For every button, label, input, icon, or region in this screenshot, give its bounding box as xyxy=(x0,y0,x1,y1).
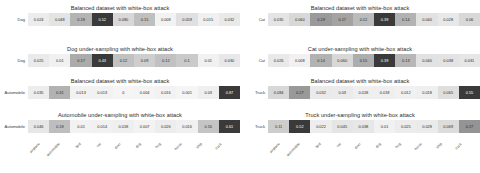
x-tick: automobile xyxy=(288,140,308,170)
y-tick-label: Automobile xyxy=(0,124,28,129)
panel-title: Balanced dataset with white-box attack xyxy=(240,78,480,85)
heatmap-cell: 0.028 xyxy=(438,13,459,26)
heatmap-cell: 0.084 xyxy=(268,86,289,99)
x-tick: automobile xyxy=(48,140,68,170)
heatmap-cell: 0.016 xyxy=(155,86,176,99)
heatmap-cell: 0.040 xyxy=(416,13,437,26)
heatmap-cell: 0.013 xyxy=(70,86,91,99)
panel-title: Dog under-sampling with white-box attack xyxy=(0,46,240,53)
heatmap-cell: 0.015 xyxy=(198,13,219,26)
x-tick-labels-right: airplaneautomobilebirdcatdeerdogfroghors… xyxy=(268,140,470,170)
x-tick-label: frog xyxy=(395,142,402,149)
heatmap-row: Truck0.110.520.0220.0450.0380.010.0250.0… xyxy=(240,120,480,133)
heatmap-cell: 0.024 xyxy=(28,13,49,26)
heatmap-cell: 0.004 xyxy=(134,86,155,99)
figure-canvas: Balanced dataset with white-box attackDo… xyxy=(0,0,480,173)
panel-title: Automobile under-sampling with white-box… xyxy=(0,112,240,119)
x-tick-labels-left: airplaneautomobilebirdcatdeerdogfroghors… xyxy=(28,140,230,170)
x-tick-label: deer xyxy=(114,142,122,150)
heatmap-strip: 0.0460.180.010.0140.0180.0070.0260.0160.… xyxy=(28,120,240,133)
heatmap-cell: 0.059 xyxy=(176,13,197,26)
x-tick: ship xyxy=(430,140,450,170)
heatmap-cell: 0.01 xyxy=(49,54,70,67)
y-tick-label: Truck xyxy=(240,124,268,129)
heatmap-cell: 0.048 xyxy=(49,13,70,26)
heatmap-panel-7: Truck under-sampling with white-box atta… xyxy=(240,112,480,133)
heatmap-strip: 0.0260.0080.140.0600.150.390.130.0400.03… xyxy=(268,54,480,67)
x-tick: horse xyxy=(409,140,429,170)
heatmap-cell: 0.01 xyxy=(198,54,219,67)
heatmap-cell: 0.046 xyxy=(28,120,49,133)
x-tick-label: deer xyxy=(354,142,362,150)
y-tick-label: Cat xyxy=(240,17,268,22)
heatmap-cell: 0.040 xyxy=(416,54,437,67)
x-tick: frog xyxy=(149,140,169,170)
heatmap-cell: 0.025 xyxy=(28,54,49,67)
heatmap-cell: 0.12 xyxy=(113,54,134,67)
x-tick-label: bird xyxy=(74,142,81,149)
panel-title: Truck under-sampling with white-box atta… xyxy=(240,112,480,119)
heatmap-strip: 0.0250.010.170.430.120.090.120.10.010.03… xyxy=(28,54,240,67)
x-tick: truck xyxy=(450,140,470,170)
right-column: Balanced dataset with white-box attackCa… xyxy=(240,0,480,173)
heatmap-cell: 0.014 xyxy=(92,120,113,133)
panel-title: Cat under-sampling with white-box attack xyxy=(240,46,480,53)
heatmap-cell: 0.001 xyxy=(176,86,197,99)
heatmap-cell: 0.14 xyxy=(310,54,331,67)
heatmap-panel-0: Balanced dataset with white-box attackDo… xyxy=(0,5,240,26)
heatmap-row: Cat0.0260.0080.140.0600.150.390.130.0400… xyxy=(240,54,480,67)
heatmap-cell: 0.035 xyxy=(28,86,49,99)
heatmap-cell: 0.18 xyxy=(49,120,70,133)
heatmap-panel-1: Dog under-sampling with white-box attack… xyxy=(0,46,240,67)
x-tick: frog xyxy=(389,140,409,170)
x-tick: horse xyxy=(169,140,189,170)
x-tick: deer xyxy=(349,140,369,170)
heatmap-cell: 0.03 xyxy=(198,86,219,99)
panel-title: Balanced dataset with white-box attack xyxy=(0,5,240,12)
heatmap-cell: 0.008 xyxy=(289,54,310,67)
heatmap-cell: 0.27 xyxy=(289,86,310,99)
heatmap-cell: 0.028 xyxy=(416,120,437,133)
heatmap-cell: 0.12 xyxy=(353,13,374,26)
heatmap-row: Truck0.0840.270.0320.030.0180.0180.0120.… xyxy=(240,86,480,99)
x-tick-label: frog xyxy=(155,142,162,149)
heatmap-cell: 0.16 xyxy=(198,120,219,133)
heatmap-cell: 0.27 xyxy=(459,120,480,133)
heatmap-cell: 0.026 xyxy=(155,120,176,133)
heatmap-cell: 0.007 xyxy=(134,120,155,133)
heatmap-cell: 0.030 xyxy=(219,54,240,67)
heatmap-row: Cat0.0350.0600.190.170.120.390.140.0400.… xyxy=(240,13,480,26)
heatmap-panel-6: Balanced dataset with white-box attackTr… xyxy=(240,78,480,99)
heatmap-cell: 0.01 xyxy=(374,120,395,133)
heatmap-row: Dog0.0250.010.170.430.120.090.120.10.010… xyxy=(0,54,240,67)
x-tick: deer xyxy=(109,140,129,170)
heatmap-cell: 0.03 xyxy=(332,86,353,99)
heatmap-cell: 0.035 xyxy=(268,13,289,26)
heatmap-panel-2: Balanced dataset with white-box attackAu… xyxy=(0,78,240,99)
heatmap-cell: 0.018 xyxy=(416,86,437,99)
heatmap-panel-5: Cat under-sampling with white-box attack… xyxy=(240,46,480,67)
heatmap-cell: 0.55 xyxy=(459,86,480,99)
heatmap-cell: 0.11 xyxy=(268,120,289,133)
heatmap-cell: 0.06 xyxy=(459,13,480,26)
heatmap-cell: 0.18 xyxy=(70,13,91,26)
x-tick-label: automobile xyxy=(46,142,61,157)
heatmap-cell: 0 xyxy=(113,86,134,99)
heatmap-cell: 0.39 xyxy=(374,13,395,26)
heatmap-cell: 0.15 xyxy=(353,54,374,67)
x-tick-label: airplane xyxy=(269,142,281,154)
heatmap-cell: 0.61 xyxy=(219,120,240,133)
x-tick: bird xyxy=(68,140,88,170)
heatmap-cell: 0.01 xyxy=(70,120,91,133)
heatmap-cell: 0.1 xyxy=(176,54,197,67)
heatmap-cell: 0.17 xyxy=(70,54,91,67)
heatmap-cell: 0.17 xyxy=(332,13,353,26)
heatmap-cell: 0.018 xyxy=(374,86,395,99)
heatmap-cell: 0.09 xyxy=(134,54,155,67)
x-tick-label: cat xyxy=(335,142,341,148)
heatmap-cell: 0.013 xyxy=(92,86,113,99)
panel-title: Balanced dataset with white-box attack xyxy=(240,5,480,12)
heatmap-cell: 0.031 xyxy=(459,54,480,67)
heatmap-cell: 0.018 xyxy=(353,86,374,99)
y-tick-label: Truck xyxy=(240,90,268,95)
